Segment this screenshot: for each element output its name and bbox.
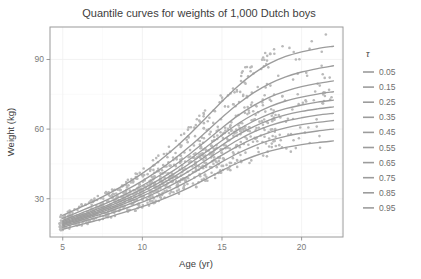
legend-label-0.15: 0.15 <box>379 82 396 92</box>
scatter-point <box>186 141 189 144</box>
scatter-point <box>208 133 211 136</box>
scatter-point <box>248 162 251 165</box>
scatter-point <box>244 151 247 154</box>
scatter-point <box>60 214 63 217</box>
scatter-point <box>179 146 182 149</box>
legend-label-0.45: 0.45 <box>379 127 396 137</box>
scatter-point <box>232 103 235 106</box>
x-tick-label: 20 <box>297 242 307 252</box>
scatter-point <box>267 66 270 69</box>
scatter-point <box>174 152 177 155</box>
scatter-point <box>243 106 246 109</box>
scatter-point <box>288 47 291 50</box>
scatter-point <box>212 163 215 166</box>
scatter-point <box>229 124 232 127</box>
scatter-point <box>256 147 259 150</box>
scatter-point <box>256 86 259 89</box>
scatter-point <box>270 146 273 149</box>
scatter-point <box>204 109 207 112</box>
scatter-point <box>281 95 284 98</box>
scatter-point <box>251 101 254 104</box>
scatter-point <box>321 73 324 76</box>
scatter-point <box>330 96 333 99</box>
scatter-point <box>209 131 212 134</box>
scatter-point <box>239 141 242 144</box>
scatter-point <box>195 185 198 188</box>
scatter-point <box>146 173 149 176</box>
scatter-point <box>281 45 284 48</box>
scatter-point <box>315 125 318 128</box>
scatter-point <box>262 154 265 157</box>
y-axis-title: Weight (kg) <box>5 108 16 156</box>
scatter-point <box>228 132 231 135</box>
y-tick-label: 30 <box>35 194 45 204</box>
scatter-point <box>206 120 209 123</box>
scatter-point <box>198 114 201 117</box>
scatter-point <box>208 116 211 119</box>
scatter-point <box>193 144 196 147</box>
scatter-point <box>250 65 253 68</box>
scatter-point <box>168 146 171 149</box>
scatter-point <box>159 196 162 199</box>
scatter-point <box>169 164 172 167</box>
scatter-point <box>263 94 266 97</box>
scatter-point <box>227 105 230 108</box>
scatter-point <box>299 126 302 129</box>
scatter-point <box>271 135 274 138</box>
scatter-point <box>272 140 275 143</box>
y-tick-label: 60 <box>35 124 45 134</box>
scatter-point <box>320 50 323 53</box>
scatter-point <box>262 123 265 126</box>
scatter-point <box>314 90 317 93</box>
scatter-point <box>196 118 199 121</box>
scatter-point <box>186 183 189 186</box>
scatter-point <box>257 151 260 154</box>
x-tick-label: 15 <box>217 242 227 252</box>
scatter-point <box>274 145 277 148</box>
scatter-point <box>221 151 224 154</box>
scatter-point <box>270 114 273 117</box>
y-tick-label: 90 <box>35 54 45 64</box>
scatter-point <box>232 151 235 154</box>
scatter-point <box>239 154 242 157</box>
legend-label-0.55: 0.55 <box>379 143 396 153</box>
scatter-point <box>262 104 265 107</box>
scatter-point <box>246 66 249 69</box>
scatter-point <box>175 139 178 142</box>
scatter-point <box>97 195 100 198</box>
scatter-point <box>270 100 273 103</box>
scatter-point <box>292 139 295 142</box>
scatter-point <box>325 33 328 36</box>
scatter-point <box>298 58 301 61</box>
scatter-point <box>236 166 239 169</box>
scatter-point <box>273 52 276 55</box>
scatter-point <box>298 137 301 140</box>
scatter-point <box>274 135 277 138</box>
scatter-point <box>219 131 222 134</box>
scatter-point <box>267 122 270 125</box>
scatter-point <box>295 58 298 61</box>
scatter-point <box>264 110 267 113</box>
legend-label-0.05: 0.05 <box>379 67 396 77</box>
scatter-point <box>318 135 321 138</box>
scatter-point <box>278 144 281 147</box>
scatter-point <box>225 164 228 167</box>
scatter-point <box>328 76 331 79</box>
legend-label-0.75: 0.75 <box>379 173 396 183</box>
scatter-point <box>149 200 152 203</box>
scatter-point <box>263 118 266 121</box>
scatter-point <box>249 70 252 73</box>
scatter-point <box>119 189 122 192</box>
scatter-point <box>163 153 166 156</box>
scatter-point <box>146 201 149 204</box>
scatter-point <box>194 135 197 138</box>
scatter-point <box>270 108 273 111</box>
scatter-point <box>228 162 231 165</box>
scatter-point <box>304 99 307 102</box>
scatter-point <box>182 186 185 189</box>
scatter-point <box>323 77 326 80</box>
scatter-point <box>149 170 152 173</box>
scatter-point <box>271 142 274 145</box>
scatter-point <box>318 84 321 87</box>
scatter-point <box>292 78 295 81</box>
